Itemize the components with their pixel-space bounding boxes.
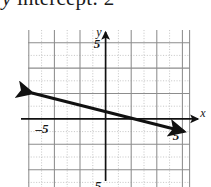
page-title-rest: intercept: 2 xyxy=(12,0,115,10)
coordinate-graph: 5 –5 5 5 y x xyxy=(0,14,211,187)
axis-label-x: x xyxy=(199,106,206,120)
tick-label-x-positive: 5 xyxy=(173,128,180,143)
axis-label-y: y xyxy=(95,25,102,39)
tick-label-x-negative: –5 xyxy=(35,121,50,136)
page-title-variable: y xyxy=(2,0,12,10)
heading-clip: y intercept: 2 xyxy=(0,0,211,14)
page-title: y intercept: 2 xyxy=(2,0,114,11)
tick-label-y-negative: 5 xyxy=(95,178,102,187)
